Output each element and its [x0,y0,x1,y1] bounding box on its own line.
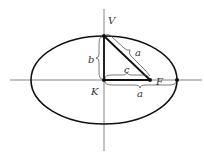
brace-b [96,37,102,79]
label-a-axis: a [137,88,143,99]
point-f [148,78,152,82]
label-a-hypotenuse: a [135,47,141,58]
point-v [102,34,106,38]
label-f: F [155,76,164,87]
label-v: V [108,15,117,26]
label-b: b [88,54,94,65]
label-k: K [90,86,99,97]
ellipse-diagram: V F K b c a a [0,0,204,160]
label-c: c [124,64,130,75]
point-right-vertex [175,78,179,82]
point-k [102,78,106,82]
